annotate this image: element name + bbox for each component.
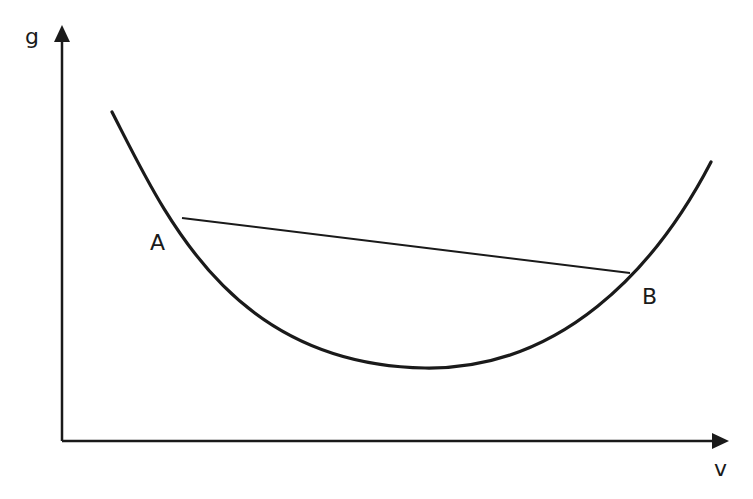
y-axis-label: g (25, 26, 39, 48)
x-axis-label: v (714, 458, 727, 480)
diagram-canvas (0, 0, 753, 499)
point-a-label: A (150, 232, 165, 254)
y-axis-arrow-icon (54, 25, 70, 42)
x-axis-arrow-icon (712, 433, 729, 449)
chord-ab (182, 218, 630, 273)
point-b-label: B (642, 286, 657, 308)
convex-curve (112, 112, 711, 368)
